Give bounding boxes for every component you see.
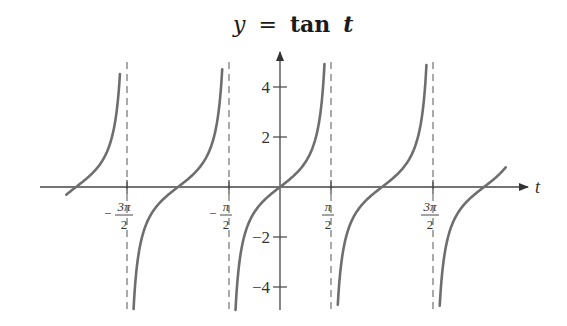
svg-text:−: − (208, 206, 217, 221)
axes: t (40, 52, 541, 310)
svg-text:2: 2 (223, 217, 230, 232)
y-tick-label: 4 (262, 78, 271, 97)
svg-text:2: 2 (121, 217, 128, 232)
svg-text:−: − (103, 206, 112, 221)
svg-text:2: 2 (427, 217, 434, 232)
svg-text:3π: 3π (117, 199, 132, 214)
tan-branch (338, 65, 427, 305)
x-ticks: −3π2−π2π23π2 (103, 180, 439, 232)
x-axis-label: t (535, 177, 541, 197)
tan-chart: y = tan t t 42−2−4 −3π2−π2π23π2 (0, 0, 567, 326)
svg-text:π: π (223, 199, 230, 214)
y-tick-label: 2 (262, 128, 271, 147)
svg-text:3π: 3π (422, 199, 437, 214)
y-tick-label: −2 (252, 228, 270, 247)
tan-branch (134, 69, 223, 309)
x-tick-label: 3π2 (421, 199, 439, 232)
svg-text:2: 2 (325, 217, 332, 232)
x-tick-label: π2 (322, 199, 334, 232)
x-tick-label: −π2 (208, 199, 232, 232)
y-tick-label: −4 (252, 278, 271, 297)
tan-branch (440, 167, 506, 305)
tan-branch (66, 74, 120, 195)
svg-text:π: π (325, 199, 332, 214)
chart-title: y = tan t (232, 11, 353, 37)
x-tick-label: −3π2 (103, 199, 133, 232)
